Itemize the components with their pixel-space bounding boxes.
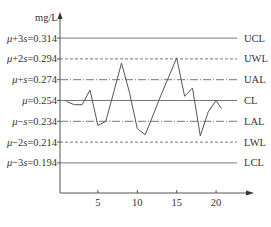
- x-tick-label: 15: [171, 197, 182, 208]
- control-lines: μ+3s=0.314UCLμ+2s=0.294UWLμ+s=0.274UALμ=…: [6, 33, 268, 169]
- x-tick-label: 10: [132, 197, 143, 208]
- control-label-left: μ−2s=0.214: [6, 137, 58, 148]
- control-label-right: UAL: [244, 74, 266, 85]
- axes: mg/L: [35, 12, 254, 196]
- data-line: [66, 58, 221, 136]
- x-tick-label: 5: [95, 197, 100, 208]
- control-label-left: μ=0.254: [21, 95, 58, 106]
- x-tick-label: 20: [211, 197, 222, 208]
- y-axis-unit: mg/L: [35, 12, 58, 23]
- control-label-right: UWL: [244, 53, 268, 64]
- control-label-left: μ−s=0.234: [11, 116, 58, 127]
- y-axis-arrow-icon: [58, 12, 63, 19]
- control-label-right: UCL: [244, 33, 265, 44]
- x-axis-arrow-icon: [246, 191, 254, 196]
- control-label-left: μ+3s=0.314: [6, 33, 58, 44]
- control-label-left: μ+2s=0.294: [6, 53, 58, 64]
- control-label-right: LAL: [244, 116, 264, 127]
- control-label-right: LCL: [244, 157, 264, 168]
- control-label-left: μ−3s=0.194: [6, 157, 58, 168]
- control-label-right: LWL: [244, 137, 266, 148]
- control-label-left: μ+s=0.274: [11, 74, 58, 85]
- control-label-right: CL: [244, 95, 257, 106]
- control-chart: μ+3s=0.314UCLμ+2s=0.294UWLμ+s=0.274UALμ=…: [0, 0, 271, 227]
